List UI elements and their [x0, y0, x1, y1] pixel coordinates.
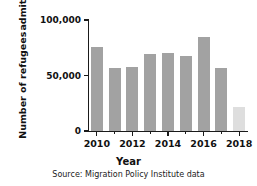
bar-2014 — [162, 53, 174, 131]
x-tick-label: 2014 — [155, 138, 181, 149]
x-axis-title: Year — [0, 156, 257, 167]
refugee-admissions-bar-chart: Number of refugees admitted into the USA… — [0, 0, 257, 186]
bar-2011 — [109, 68, 121, 131]
bar-2017 — [215, 68, 227, 131]
y-axis-title-line-1: Number of refugees — [17, 32, 28, 139]
x-tick-label: 2012 — [119, 138, 145, 149]
x-tick-major — [96, 131, 97, 136]
y-tick — [84, 19, 89, 20]
bar-2012 — [126, 67, 138, 131]
y-tick — [84, 130, 89, 131]
bar-2013 — [144, 54, 156, 131]
x-tick-label: 2018 — [226, 138, 252, 149]
y-tick-label: 0 — [75, 126, 81, 136]
x-tick-major — [132, 131, 133, 136]
x-tick-minor — [185, 131, 186, 134]
x-tick-minor — [221, 131, 222, 134]
y-tick-label: 100,000 — [40, 15, 81, 25]
y-axis-title-line-2: admitted into the USA — [17, 0, 28, 31]
x-tick-major — [203, 131, 204, 136]
plot-area: 050,000100,000 20102012201420162018 — [88, 20, 248, 131]
y-axis-title: Number of refugees admitted into the USA — [5, 0, 39, 85]
bar-2018 — [233, 107, 245, 131]
x-tick-major — [167, 131, 168, 136]
x-tick-minor — [114, 131, 115, 134]
bar-2016 — [198, 37, 210, 131]
bar-2010 — [91, 47, 103, 131]
x-tick-major — [239, 131, 240, 136]
source-note: Source: Migration Policy Institute data — [0, 170, 257, 179]
x-tick-label: 2010 — [84, 138, 110, 149]
bar-2015 — [180, 56, 192, 131]
x-tick-minor — [150, 131, 151, 134]
y-tick-label: 50,000 — [46, 71, 81, 81]
y-tick — [84, 75, 89, 76]
x-tick-label: 2016 — [190, 138, 216, 149]
